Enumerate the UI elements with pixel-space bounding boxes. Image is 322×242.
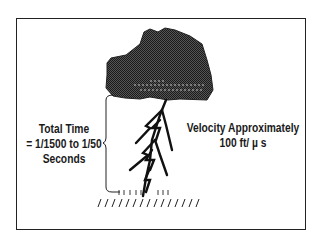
total-time-line3: Seconds — [23, 152, 105, 167]
velocity-line1: Velocity Approximately — [182, 121, 305, 136]
ground-hatch — [98, 199, 199, 207]
total-time-label: Total Time = 1/1500 to 1/50 Seconds — [23, 122, 105, 167]
total-time-line2: = 1/1500 to 1/50 — [23, 137, 105, 152]
lightning-bolt-icon — [130, 100, 172, 196]
storm-cloud-icon — [106, 28, 213, 100]
total-time-line1: Total Time — [23, 122, 105, 137]
time-bracket — [103, 95, 120, 192]
velocity-label: Velocity Approximately 100 ft/ µ s — [182, 121, 305, 151]
velocity-line2: 100 ft/ µ s — [182, 136, 305, 151]
